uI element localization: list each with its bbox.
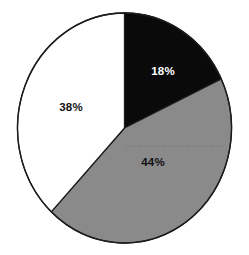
slice-label-38: 38% — [59, 101, 83, 113]
slice-label-44: 44% — [141, 156, 165, 168]
pie-slices-group — [17, 13, 231, 243]
pie-chart-svg: 18%44%38% — [0, 0, 249, 255]
slice-label-18: 18% — [151, 65, 175, 77]
pie-chart-figure: 18%44%38% — [0, 0, 249, 255]
